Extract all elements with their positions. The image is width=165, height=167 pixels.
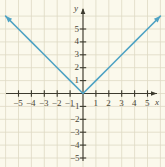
y-tick-label-neg5: −5 <box>70 154 80 163</box>
y-tick-label-neg2: −2 <box>70 115 80 124</box>
y-tick-label-5: 5 <box>75 25 80 34</box>
x-tick-label-3: 3 <box>119 99 124 108</box>
x-tick-label-neg5: −5 <box>13 99 23 108</box>
x-tick-label-neg3: −3 <box>39 99 49 108</box>
y-axis-name-label: y <box>74 4 78 13</box>
y-tick-label-1: 1 <box>75 76 80 85</box>
x-tick-label-4: 4 <box>132 99 137 108</box>
y-tick-label-4: 4 <box>75 37 80 46</box>
y-tick-label-neg4: −4 <box>70 141 80 150</box>
x-axis-arrow-icon <box>151 91 157 96</box>
x-tick-label-neg2: −2 <box>52 99 62 108</box>
y-tick-label-3: 3 <box>75 50 80 59</box>
y-tick-label-neg1: −1 <box>70 102 80 111</box>
y-tick-label-neg3: −3 <box>70 128 80 137</box>
x-tick-label-5: 5 <box>145 99 150 108</box>
x-tick-label-2: 2 <box>106 99 111 108</box>
y-tick-label-2: 2 <box>75 63 80 72</box>
x-tick-label-neg4: −4 <box>26 99 36 108</box>
graph-canvas <box>0 0 165 167</box>
x-tick-label-1: 1 <box>93 99 98 108</box>
y-axis-arrow-icon <box>81 8 86 14</box>
coordinate-plane-figure: −5−4−3−2−11234554321−1−2−3−4−5xy <box>0 0 165 167</box>
x-axis-name-label: x <box>155 98 159 107</box>
